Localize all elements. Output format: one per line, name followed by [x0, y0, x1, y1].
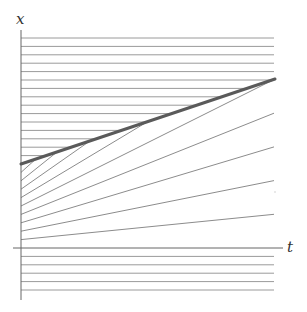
t-axis-label: t — [287, 238, 294, 256]
fan-characteristic — [21, 181, 274, 232]
stray-dot — [274, 191, 276, 193]
characteristics-diagram: x t — [0, 0, 307, 312]
fan-characteristic — [21, 147, 274, 223]
fan-characteristic — [21, 141, 90, 189]
fan-characteristic — [21, 113, 274, 214]
fan-characteristics — [21, 80, 274, 240]
x-axis-label: x — [16, 10, 25, 28]
fan-characteristic — [21, 214, 274, 239]
fan-characteristic — [21, 122, 148, 198]
horizontal-characteristics-above-shock — [21, 38, 274, 156]
fan-characteristic — [21, 80, 274, 207]
horizontal-characteristics-below-axis — [21, 256, 274, 290]
